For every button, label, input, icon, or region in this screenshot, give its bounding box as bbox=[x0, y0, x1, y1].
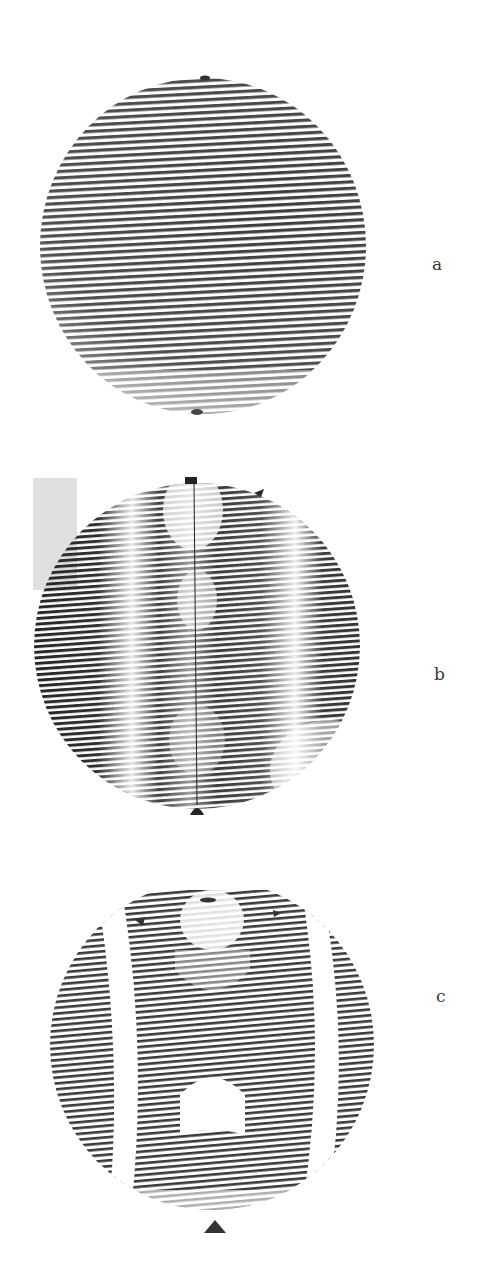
interferogram-a bbox=[0, 0, 485, 430]
panel-c: c bbox=[0, 860, 485, 1280]
interferogram-b bbox=[0, 440, 485, 860]
panel-a: a bbox=[0, 0, 485, 430]
marker-bottom-b bbox=[190, 808, 204, 815]
marker-top-a bbox=[200, 76, 210, 81]
panel-label-b: b bbox=[434, 666, 445, 683]
marker-top-c bbox=[200, 898, 216, 903]
panel-label-c: c bbox=[436, 988, 446, 1005]
marker-top-b bbox=[185, 477, 197, 484]
interferogram-c bbox=[0, 860, 485, 1280]
panel-label-a: a bbox=[432, 256, 442, 273]
panel-b: b bbox=[0, 440, 485, 860]
marker-bottom-a bbox=[191, 409, 203, 415]
marker-triangle-c bbox=[204, 1220, 226, 1233]
